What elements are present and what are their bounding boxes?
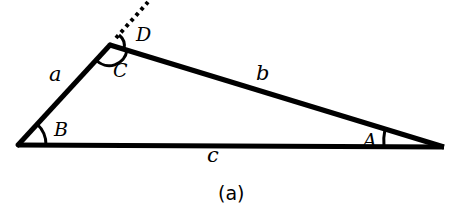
figure-caption: (a) — [218, 182, 244, 204]
side-b — [110, 45, 444, 147]
angle-arc-A — [384, 129, 385, 147]
angle-label-D: D — [135, 23, 151, 45]
angle-label-B: B — [53, 118, 68, 140]
triangle-diagram: a b c A B C D (a) — [0, 0, 466, 219]
side-label-c: c — [207, 143, 219, 167]
angle-arc-B — [37, 124, 46, 145]
side-label-a: a — [49, 62, 62, 86]
angle-label-A: A — [361, 129, 377, 151]
side-label-b: b — [256, 61, 269, 85]
angle-label-C: C — [113, 59, 128, 81]
side-c — [18, 145, 444, 147]
